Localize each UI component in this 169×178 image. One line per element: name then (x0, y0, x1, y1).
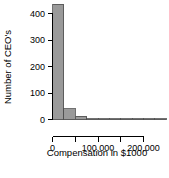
histogram-figure: 0100200300400 0100,000200,000 Compensati… (0, 0, 169, 178)
histogram-bar (144, 119, 155, 120)
histogram-bar (98, 119, 109, 120)
y-tick-label: 200 (30, 62, 45, 72)
y-tick-label: 100 (30, 88, 45, 98)
y-tick-label: 0 (40, 115, 45, 125)
histogram-bar (75, 116, 86, 119)
y-tick-label: 300 (30, 35, 45, 45)
histogram-bar (121, 119, 132, 120)
x-axis-title: Compensation in $1000 (47, 147, 147, 158)
histogram-bar (64, 109, 75, 120)
histogram-svg: 0100200300400 0100,000200,000 Compensati… (0, 0, 169, 178)
histogram-bar (109, 119, 120, 120)
y-axis-title: Number of CEO's (2, 30, 13, 104)
y-tick-label: 400 (30, 9, 45, 19)
histogram-bar (132, 119, 143, 120)
histogram-bar (53, 4, 64, 119)
histogram-bar (87, 119, 98, 120)
histogram-bar (155, 119, 166, 120)
